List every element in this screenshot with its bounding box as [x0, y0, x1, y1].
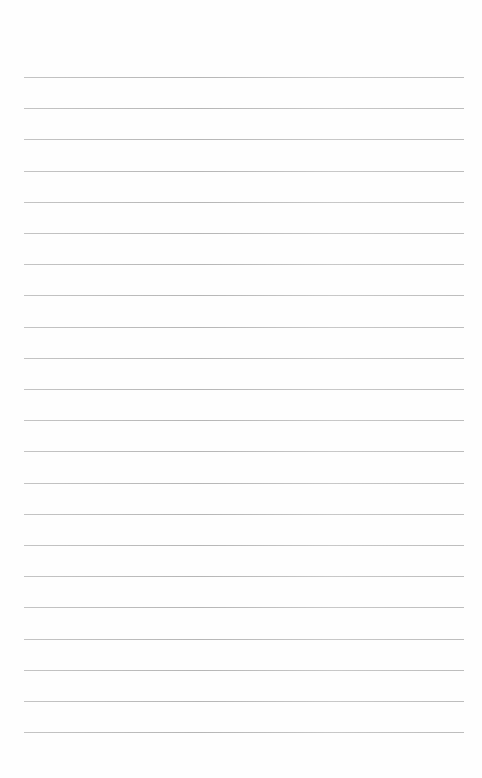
ruled-line — [24, 701, 464, 702]
ruled-line — [24, 545, 464, 546]
ruled-line — [24, 670, 464, 671]
ruled-line — [24, 77, 464, 78]
ruled-line — [24, 732, 464, 733]
ruled-line — [24, 202, 464, 203]
ruled-line — [24, 607, 464, 608]
ruled-line — [24, 139, 464, 140]
ruled-line — [24, 514, 464, 515]
ruled-line — [24, 171, 464, 172]
ruled-line — [24, 420, 464, 421]
ruled-line — [24, 295, 464, 296]
ruled-line — [24, 451, 464, 452]
ruled-line — [24, 233, 464, 234]
ruled-line — [24, 264, 464, 265]
ruled-line — [24, 576, 464, 577]
ruled-line — [24, 358, 464, 359]
ruled-line — [24, 483, 464, 484]
ruled-line — [24, 327, 464, 328]
ruled-line — [24, 389, 464, 390]
ruled-line — [24, 639, 464, 640]
notebook-page — [0, 0, 482, 778]
ruled-line — [24, 108, 464, 109]
